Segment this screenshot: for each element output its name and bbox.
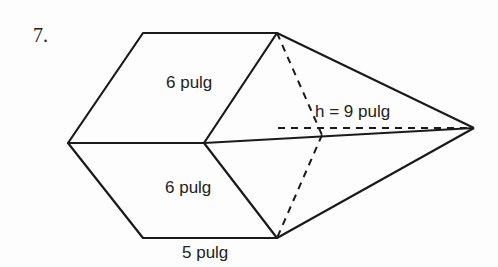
pyramid-bottom-edge bbox=[277, 128, 474, 238]
problem-number: 7. bbox=[33, 24, 48, 47]
bottom-edge-label: 6 pulg bbox=[165, 178, 211, 198]
hidden-edge-lower bbox=[277, 135, 322, 238]
base-label: 5 pulg bbox=[182, 243, 228, 263]
prism-pyramid-figure bbox=[0, 0, 498, 267]
top-edge-label: 6 pulg bbox=[166, 73, 212, 93]
diagram: 7. 6 pulg 6 pulg 5 pulg h = 9 pulg bbox=[0, 0, 498, 267]
height-label: h = 9 pulg bbox=[315, 102, 390, 122]
pyramid-middle-edge bbox=[204, 128, 474, 143]
